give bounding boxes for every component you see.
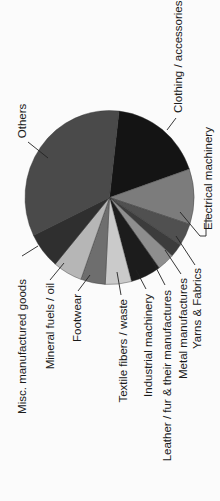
label-yarns: Yarns & Fabrics (191, 268, 203, 349)
label-leather: Leather / fur & their manufactures (161, 290, 173, 462)
label-textile: Textile fibers / waste (117, 299, 129, 403)
label-others: Others (16, 103, 28, 138)
pie-chart-svg: Others Clothing / accessories Electrical… (0, 0, 220, 501)
label-footwear: Footwear (71, 294, 83, 342)
label-metal: Metal manufactures (177, 278, 189, 379)
pie-slices (25, 111, 194, 285)
label-misc: Misc. manufactured goods (16, 279, 28, 414)
pie-chart-figure: Others Clothing / accessories Electrical… (0, 0, 220, 501)
label-clothing: Clothing / accessories (172, 0, 184, 113)
label-industrial: Industrial machinery (142, 294, 154, 397)
leader-clothing (167, 118, 176, 130)
label-mineral: Mineral fuels / oil (44, 283, 56, 369)
label-electrical: Electrical machinery (202, 127, 214, 230)
leader-yarns (176, 236, 195, 265)
leader-misc (22, 246, 38, 256)
